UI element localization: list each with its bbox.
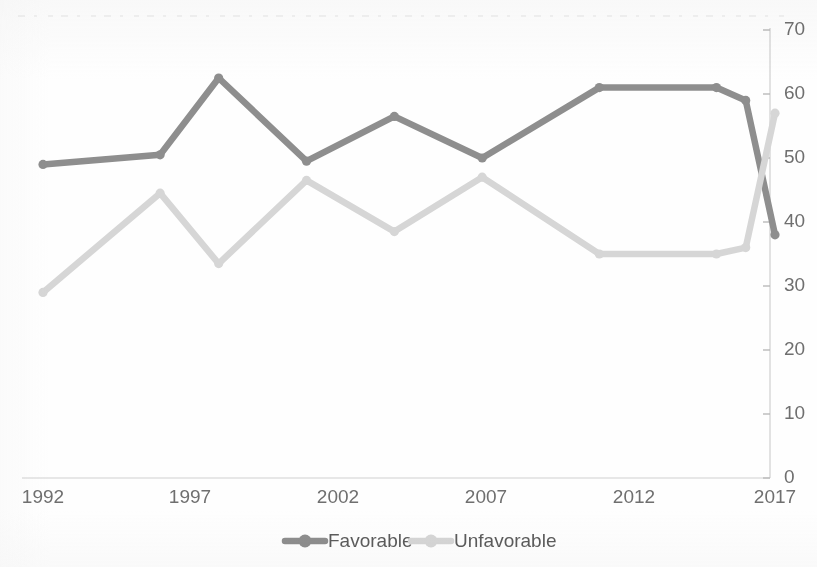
legend-marker-favorable (299, 535, 312, 548)
data-point-unfavorable-2011 (595, 249, 604, 258)
y-tick-label-50: 50 (784, 146, 805, 167)
data-point-favorable-2007 (478, 153, 487, 162)
x-tick-label-2007: 2007 (465, 486, 507, 507)
series-line-favorable (43, 78, 775, 235)
data-point-unfavorable-2001 (302, 176, 311, 185)
data-point-favorable-2017 (770, 230, 779, 239)
legend-marker-unfavorable (425, 535, 438, 548)
data-point-favorable-1992 (38, 160, 47, 169)
chart-legend: Favorable Unfavorable (285, 530, 556, 551)
y-axis-tick-labels: 70 60 50 40 30 20 10 0 (784, 18, 805, 487)
y-tick-label-40: 40 (784, 210, 805, 231)
data-point-unfavorable-2016 (741, 243, 750, 252)
x-tick-label-1992: 1992 (22, 486, 64, 507)
series-unfavorable (38, 109, 779, 297)
data-point-favorable-1996 (156, 150, 165, 159)
line-chart-figure: 70 60 50 40 30 20 10 0 1992 1997 2002 20… (0, 0, 817, 567)
data-point-unfavorable-1992 (38, 288, 47, 297)
data-point-unfavorable-2015 (712, 249, 721, 258)
chart-plot-area: 70 60 50 40 30 20 10 0 1992 1997 2002 20… (0, 0, 817, 567)
data-point-favorable-2011 (595, 83, 604, 92)
series-line-unfavorable (43, 113, 775, 292)
y-tick-label-30: 30 (784, 274, 805, 295)
legend-label-favorable: Favorable (328, 530, 413, 551)
x-axis-tick-labels: 1992 1997 2002 2007 2012 2017 (22, 486, 796, 507)
y-tick-label-10: 10 (784, 402, 805, 423)
legend-label-unfavorable: Unfavorable (454, 530, 556, 551)
x-tick-label-2012: 2012 (613, 486, 655, 507)
data-point-favorable-2015 (712, 83, 721, 92)
x-tick-label-2017: 2017 (754, 486, 796, 507)
data-point-unfavorable-2004 (390, 227, 399, 236)
data-point-unfavorable-2007 (478, 173, 487, 182)
data-point-unfavorable-1998 (214, 259, 223, 268)
x-tick-label-2002: 2002 (317, 486, 359, 507)
legend-item-favorable[interactable]: Favorable (285, 530, 413, 551)
y-tick-label-60: 60 (784, 82, 805, 103)
data-series-layer (38, 73, 779, 297)
legend-item-unfavorable[interactable]: Unfavorable (411, 530, 556, 551)
y-tick-label-0: 0 (784, 466, 795, 487)
data-point-favorable-1998 (214, 73, 223, 82)
series-favorable (38, 73, 779, 239)
data-point-favorable-2001 (302, 157, 311, 166)
data-point-unfavorable-1996 (156, 189, 165, 198)
y-tick-label-70: 70 (784, 18, 805, 39)
y-axis-ticks (763, 30, 770, 478)
data-point-favorable-2016 (741, 96, 750, 105)
data-point-favorable-2004 (390, 112, 399, 121)
data-point-unfavorable-2017 (770, 109, 779, 118)
y-tick-label-20: 20 (784, 338, 805, 359)
x-tick-label-1997: 1997 (169, 486, 211, 507)
